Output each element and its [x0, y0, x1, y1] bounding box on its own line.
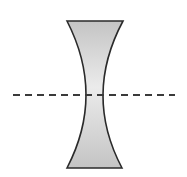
diagram-canvas	[0, 0, 187, 177]
lens-diagram	[0, 0, 187, 177]
